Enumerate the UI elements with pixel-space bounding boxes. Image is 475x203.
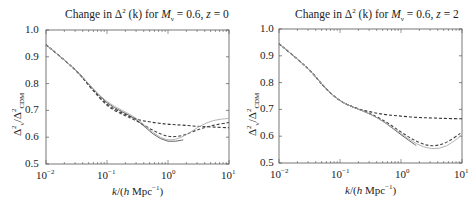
- x-axis-label: k/(h Mpc−1): [345, 183, 396, 196]
- series-line: [46, 45, 229, 140]
- axes-frame: [46, 30, 229, 164]
- x-axis-label: k/(h Mpc−1): [112, 184, 163, 197]
- x-tick-label: 100: [161, 168, 176, 181]
- series-line: [279, 44, 462, 119]
- chart-title: Change in Δ2 (k) for Mν = 0.6, z = 0: [65, 7, 229, 23]
- y-tick-label: 0.7: [260, 102, 274, 114]
- y-tick-label: 1.0: [25, 23, 39, 35]
- x-tick-label: 101: [221, 168, 236, 181]
- y-tick-label: 0.6: [25, 130, 39, 142]
- y-axis-label: Δ2ν/Δ2CDM: [10, 93, 26, 136]
- series-line: [279, 44, 462, 149]
- series-line: [279, 44, 462, 146]
- x-tick-label: 10−1: [97, 168, 115, 181]
- series-line: [46, 45, 229, 137]
- x-tick-label: 10−2: [270, 167, 288, 180]
- x-tick-label: 10−2: [36, 168, 54, 181]
- y-tick-label: 0.9: [260, 49, 274, 61]
- y-tick-label: 0.8: [260, 76, 274, 88]
- axes-frame: [279, 29, 462, 163]
- chart-title: Change in Δ2 (k) for Mν = 0.6, z = 2: [295, 7, 459, 23]
- x-tick-label: 100: [395, 167, 410, 180]
- y-tick-label: 1.0: [260, 22, 274, 34]
- chart-panel-z2: Change in Δ2 (k) for Mν = 0.6, z = 2 Δ2ν…: [235, 0, 475, 203]
- y-tick-label: 0.7: [25, 103, 39, 115]
- series-line: [46, 45, 183, 142]
- y-tick-label: 0.8: [25, 77, 39, 89]
- x-tick-label: 10−1: [331, 167, 349, 180]
- series-line: [46, 45, 229, 128]
- x-tick-label: 101: [454, 167, 469, 180]
- y-tick-label: 0.6: [260, 129, 274, 141]
- y-tick-label: 0.9: [25, 50, 39, 62]
- y-axis-label: Δ2ν/Δ2CDM: [245, 93, 261, 136]
- chart-panel-z0: Change in Δ2 (k) for Mν = 0.6, z = 0 Δ2ν…: [0, 0, 237, 203]
